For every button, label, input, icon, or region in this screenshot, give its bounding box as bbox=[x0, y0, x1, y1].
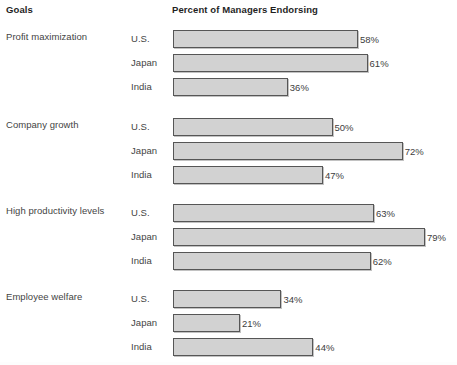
country-label: India bbox=[131, 166, 152, 184]
bar bbox=[173, 78, 288, 96]
bar-value-label: 58% bbox=[358, 30, 379, 48]
grouped-bar-chart: Goals Percent of Managers Endorsing Prof… bbox=[0, 0, 457, 365]
bar-row: U.S.63% bbox=[0, 204, 457, 222]
bar-value-label: 63% bbox=[374, 204, 395, 222]
bar-row: Japan21% bbox=[0, 314, 457, 332]
bar-row: U.S.34% bbox=[0, 290, 457, 308]
bar-row: India62% bbox=[0, 252, 457, 270]
country-label: India bbox=[131, 252, 152, 270]
country-label: U.S. bbox=[131, 204, 150, 222]
bar-row: U.S.50% bbox=[0, 118, 457, 136]
bar bbox=[173, 118, 333, 136]
bar bbox=[173, 314, 240, 332]
bar-row: India36% bbox=[0, 78, 457, 96]
country-label: U.S. bbox=[131, 290, 150, 308]
bar-row: Japan72% bbox=[0, 142, 457, 160]
bar-value-label: 61% bbox=[368, 54, 389, 72]
bar bbox=[173, 166, 323, 184]
column-header-goals: Goals bbox=[6, 4, 33, 15]
country-label: U.S. bbox=[131, 118, 150, 136]
bar-value-label: 21% bbox=[240, 314, 261, 332]
bar bbox=[173, 338, 313, 356]
country-label: India bbox=[131, 338, 152, 356]
country-label: U.S. bbox=[131, 30, 150, 48]
bar-value-label: 79% bbox=[425, 228, 446, 246]
country-label: Japan bbox=[131, 228, 157, 246]
bar bbox=[173, 252, 371, 270]
bar-value-label: 62% bbox=[371, 252, 392, 270]
bar-value-label: 72% bbox=[403, 142, 424, 160]
country-label: India bbox=[131, 78, 152, 96]
bar-row: Japan79% bbox=[0, 228, 457, 246]
country-label: Japan bbox=[131, 54, 157, 72]
bar-value-label: 44% bbox=[313, 338, 334, 356]
bar bbox=[173, 290, 281, 308]
bar-value-label: 50% bbox=[333, 118, 354, 136]
country-label: Japan bbox=[131, 314, 157, 332]
bar-value-label: 34% bbox=[281, 290, 302, 308]
bar bbox=[173, 54, 368, 72]
bar-row: India47% bbox=[0, 166, 457, 184]
bar-row: India44% bbox=[0, 338, 457, 356]
country-label: Japan bbox=[131, 142, 157, 160]
bar-row: U.S.58% bbox=[0, 30, 457, 48]
bar-value-label: 36% bbox=[288, 78, 309, 96]
column-header-percent: Percent of Managers Endorsing bbox=[172, 4, 318, 15]
bar bbox=[173, 204, 374, 222]
bar bbox=[173, 142, 403, 160]
bar-row: Japan61% bbox=[0, 54, 457, 72]
bar-value-label: 47% bbox=[323, 166, 344, 184]
bar bbox=[173, 228, 425, 246]
bar bbox=[173, 30, 358, 48]
